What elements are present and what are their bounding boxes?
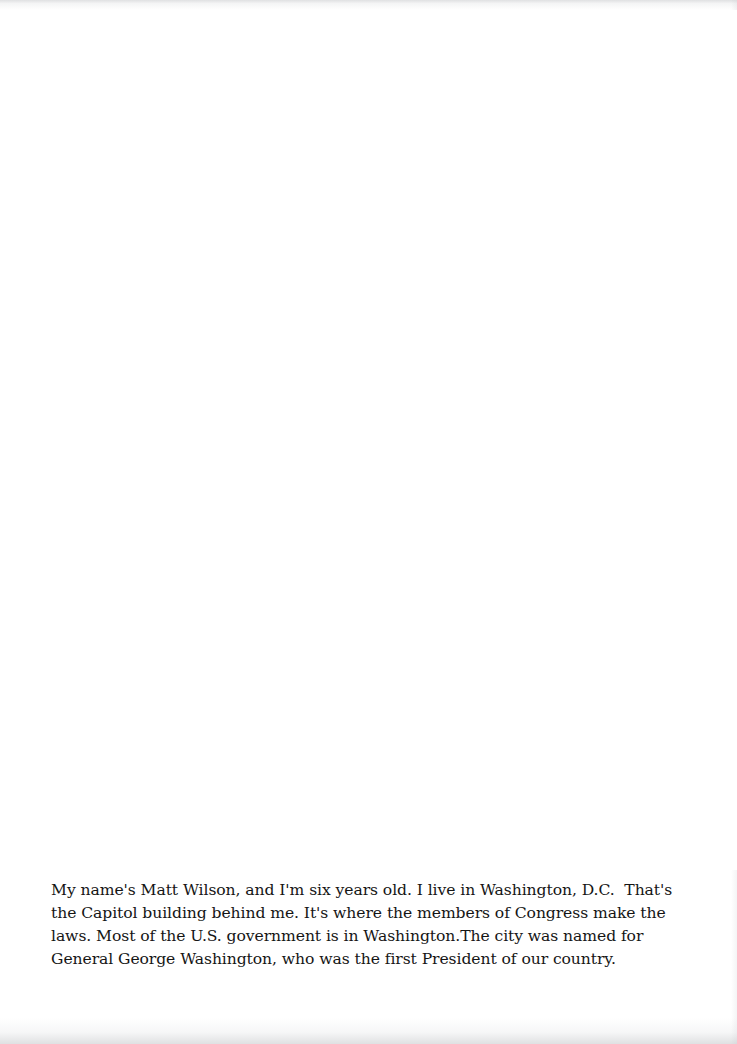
caption-line: the Capitol building behind me. It's whe…	[51, 902, 701, 925]
scan-edge-top	[0, 0, 737, 10]
caption-line: laws. Most of the U.S. government is in …	[51, 925, 701, 948]
caption-line: General George Washington, who was the f…	[51, 948, 701, 971]
caption-line: My name's Matt Wilson, and I'm six years…	[51, 879, 701, 902]
scan-edge-bottom	[0, 1018, 737, 1044]
scanned-page: My name's Matt Wilson, and I'm six years…	[0, 0, 737, 1044]
caption-block: My name's Matt Wilson, and I'm six years…	[51, 879, 701, 971]
illustration-area	[0, 10, 737, 870]
